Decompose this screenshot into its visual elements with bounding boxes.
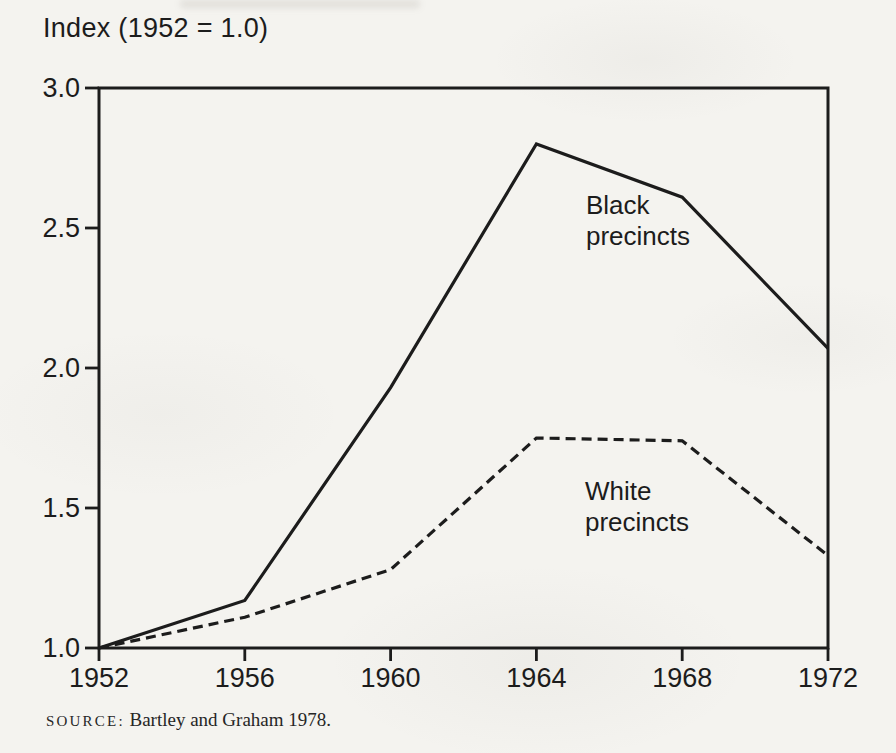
source-note: SOURCE: Bartley and Graham 1978. <box>46 709 331 731</box>
y-tick-label: 2.0 <box>18 354 80 382</box>
x-tick-label: 1968 <box>637 663 727 694</box>
series-line-white-precincts <box>99 438 828 648</box>
series-label-black-precincts: Black precincts <box>586 190 690 252</box>
series-label-white-precincts: White precincts <box>585 476 689 538</box>
y-tick-label: 1.5 <box>18 494 80 522</box>
y-tick-label: 3.0 <box>18 74 80 102</box>
series-label-line: precincts <box>586 221 690 252</box>
x-tick-label: 1960 <box>346 663 436 694</box>
x-tick-label: 1972 <box>783 663 873 694</box>
source-label: SOURCE: <box>46 713 125 729</box>
series-label-line: Black <box>586 190 690 221</box>
scanned-book-page: Index (1952 = 1.0) 1.01.52.02.53.0 19521… <box>0 0 896 753</box>
source-text: Bartley and Graham 1978. <box>125 709 331 730</box>
x-tick-label: 1964 <box>491 663 581 694</box>
series-label-line: White <box>585 476 689 507</box>
series-label-line: precincts <box>585 507 689 538</box>
plot-border <box>99 88 828 648</box>
y-tick-label: 1.0 <box>18 634 80 662</box>
y-tick-label: 2.5 <box>18 214 80 242</box>
series-line-black-precincts <box>99 144 828 648</box>
x-tick-label: 1952 <box>54 663 144 694</box>
line-chart <box>0 0 896 753</box>
x-tick-label: 1956 <box>200 663 290 694</box>
